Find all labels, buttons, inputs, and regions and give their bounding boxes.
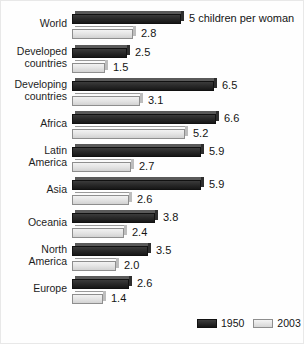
bar-face — [72, 129, 185, 139]
bar-rect — [72, 195, 129, 205]
chart-row: Africa6.65.2 — [1, 111, 304, 144]
bar-rect — [72, 213, 155, 223]
bar-face — [72, 14, 181, 24]
bar-value-label: 3.1 — [148, 94, 163, 106]
bar-value-label: 1.4 — [111, 292, 126, 304]
category-label: Africa — [1, 118, 67, 130]
bar-value-label: 2.7 — [139, 160, 154, 172]
bar-rect — [72, 48, 127, 58]
bar-value-label: 5.9 — [209, 178, 224, 190]
chart-rows: World5 children per woman2.8Developed co… — [1, 11, 304, 309]
bar-face — [72, 246, 148, 256]
bar-rect — [72, 29, 133, 39]
bar-face — [72, 147, 201, 157]
bar-value-label: 6.5 — [222, 79, 237, 91]
bar-rect — [72, 180, 201, 190]
bar-face — [72, 228, 124, 238]
legend-label-1950: 1950 — [221, 317, 244, 329]
category-label: World — [1, 18, 67, 30]
chart-row: Latin America5.92.7 — [1, 144, 304, 177]
bar-top-bevel — [75, 276, 132, 279]
bar-face — [72, 294, 103, 304]
bar-value-label: 2.4 — [132, 226, 147, 238]
chart-row: Developing countries6.53.1 — [1, 78, 304, 111]
bar-value-label: 1.5 — [113, 61, 128, 73]
bar-face — [72, 162, 131, 172]
legend-label-2003: 2003 — [277, 317, 300, 329]
bar-top-bevel — [75, 45, 130, 48]
bar-value-label: 5.2 — [193, 127, 208, 139]
bar-end-cap — [201, 177, 204, 187]
bar-value-label: 6.6 — [224, 112, 239, 124]
bar-top-bevel — [75, 258, 119, 261]
bar-top-bevel — [75, 291, 106, 294]
bar-top-bevel — [75, 210, 158, 213]
bar-rect — [72, 228, 124, 238]
bar-top-bevel — [75, 243, 151, 246]
bar-end-cap — [124, 225, 127, 235]
bar-face — [72, 29, 133, 39]
bar-end-cap — [148, 243, 151, 253]
bar-rect — [72, 96, 140, 106]
category-label: Oceania — [1, 217, 67, 229]
bar-face — [72, 81, 214, 91]
bar-top-bevel — [75, 93, 143, 96]
chart-legend: 1950 2003 — [197, 317, 301, 329]
bar-end-cap — [103, 291, 106, 301]
chart-row: Asia5.92.6 — [1, 177, 304, 210]
bar-end-cap — [214, 78, 217, 88]
bar-face — [72, 279, 129, 289]
bar-value-label: 2.8 — [141, 27, 156, 39]
category-label: Asia — [1, 184, 67, 196]
bar-top-bevel — [75, 225, 127, 228]
bar-end-cap — [216, 111, 219, 121]
bar-value-label: 3.8 — [163, 211, 178, 223]
chart-row: Oceania3.82.4 — [1, 210, 304, 243]
bar-end-cap — [140, 93, 143, 103]
bar-end-cap — [155, 210, 158, 220]
bar-face — [72, 213, 155, 223]
bar-face — [72, 180, 201, 190]
bar-value-label: 2.5 — [135, 46, 150, 58]
bar-rect — [72, 147, 201, 157]
legend-swatch-1950 — [197, 319, 217, 328]
bar-value-label: 5 children per woman — [189, 12, 294, 24]
bar-end-cap — [185, 126, 188, 136]
bar-top-bevel — [75, 11, 184, 14]
bar-top-bevel — [75, 159, 134, 162]
bar-top-bevel — [75, 177, 204, 180]
bar-value-label: 5.9 — [209, 145, 224, 157]
bar-rect — [72, 129, 185, 139]
bar-end-cap — [127, 45, 130, 55]
bar-end-cap — [201, 144, 204, 154]
bar-top-bevel — [75, 78, 217, 81]
bar-end-cap — [131, 159, 134, 169]
bar-end-cap — [129, 192, 132, 202]
legend-item-2003: 2003 — [253, 317, 300, 329]
chart-row: Developed countries2.51.5 — [1, 45, 304, 78]
bar-face — [72, 195, 129, 205]
bar-value-label: 3.5 — [156, 244, 171, 256]
bar-face — [72, 96, 140, 106]
bar-rect — [72, 14, 181, 24]
bar-face — [72, 48, 127, 58]
category-label: North America — [1, 244, 67, 267]
bar-end-cap — [105, 60, 108, 70]
bar-value-label: 2.6 — [137, 277, 152, 289]
fertility-bar-chart: World5 children per woman2.8Developed co… — [0, 0, 304, 344]
bar-rect — [72, 81, 214, 91]
bar-end-cap — [129, 276, 132, 286]
bar-top-bevel — [75, 126, 188, 129]
category-label: Latin America — [1, 145, 67, 168]
bar-value-label: 2.0 — [124, 259, 139, 271]
bar-top-bevel — [75, 60, 108, 63]
bar-face — [72, 261, 116, 271]
bar-rect — [72, 279, 129, 289]
category-label: Developed countries — [1, 46, 67, 69]
chart-row: Europe2.61.4 — [1, 276, 304, 309]
bar-end-cap — [133, 26, 136, 36]
category-label: Developing countries — [1, 79, 67, 102]
bar-rect — [72, 114, 216, 124]
bar-rect — [72, 294, 103, 304]
bar-top-bevel — [75, 192, 132, 195]
